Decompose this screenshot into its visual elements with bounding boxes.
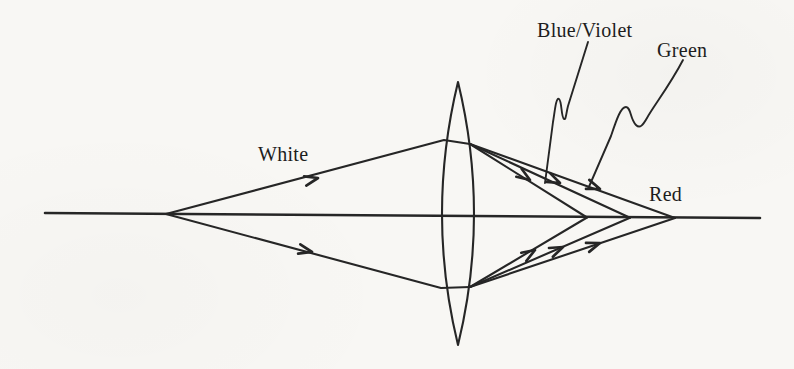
label-leader-lines <box>545 42 683 189</box>
optical-axis-line <box>45 213 760 218</box>
arrowhead-upper-green <box>546 173 560 183</box>
scanned-figure-page: White Blue/Violet Green Red <box>0 0 794 369</box>
refracted-ray-lower-green <box>470 218 630 287</box>
refracted-ray-lower-red <box>470 218 675 287</box>
label-green: Green <box>657 39 707 61</box>
label-blue-violet: Blue/Violet <box>537 19 633 41</box>
label-white: White <box>258 143 308 165</box>
chromatic-aberration-diagram: White Blue/Violet Green Red <box>0 0 794 369</box>
leader-line-blue-violet <box>545 42 588 183</box>
lens-outline <box>442 82 474 345</box>
incident-ray-lower <box>166 214 470 288</box>
refracted-ray-upper-red <box>470 144 675 218</box>
arrowhead-incident-lower <box>298 244 312 253</box>
arrowhead-incident-upper <box>304 176 318 185</box>
label-red: Red <box>649 183 682 205</box>
diagram-labels: White Blue/Violet Green Red <box>258 19 707 205</box>
leader-line-green <box>588 60 683 189</box>
